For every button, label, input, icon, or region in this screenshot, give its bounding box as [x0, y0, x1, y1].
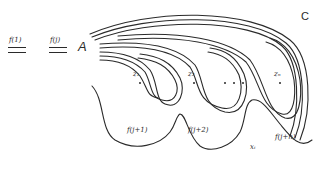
label-base-point-A: A: [78, 39, 87, 54]
ellipsis-dot-2: [233, 82, 235, 84]
loop-z1-inner: [100, 56, 177, 101]
pole-zn-dot: [279, 82, 281, 84]
contour-diagram: [0, 0, 319, 169]
label-pole-z2: z₂: [188, 70, 195, 78]
loop-z2-inner: [100, 47, 241, 109]
double-underline-fj: [49, 47, 67, 53]
label-pole-z1: z₁: [133, 70, 140, 78]
label-fj: f(j): [50, 36, 60, 44]
loop-zn-inner: [118, 38, 295, 114]
double-underline-f1: [8, 47, 26, 53]
pole-z1-dot: [139, 82, 141, 84]
label-f1: f(1): [9, 36, 22, 44]
loop-z1-third: [100, 60, 158, 98]
label-point-xi: xᵢ: [250, 143, 255, 151]
ellipsis-dot-1: [224, 82, 226, 84]
label-sheet-fjn: f(j+n): [275, 133, 296, 141]
label-pole-zn: zₙ: [274, 70, 281, 78]
label-region-C: C: [301, 10, 309, 22]
label-sheet-fj1: f(j+1): [127, 126, 148, 134]
ellipsis-dot-3: [242, 82, 244, 84]
label-sheet-fj2: f(j+2): [188, 126, 209, 134]
pole-z2-dot: [193, 82, 195, 84]
